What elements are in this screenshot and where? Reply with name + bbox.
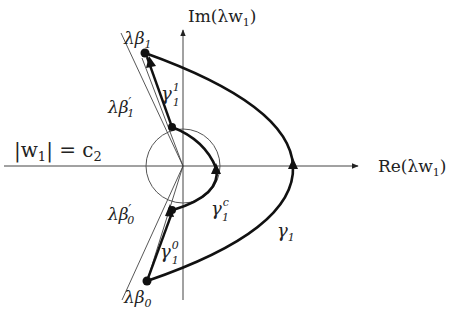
y-axis-label: Im(λw1) [188, 6, 256, 29]
contour-diagram: Im(λw1) Re(λw1) |w1| = c2 λβ1 λβ′1 λβ′0 … [0, 0, 464, 321]
label-beta1-prime: λβ′1 [107, 96, 134, 120]
label-gamma1: γ1 [277, 220, 295, 244]
gamma1-arrow-icon [288, 158, 298, 169]
ray-beta1-inner [142, 58, 183, 166]
label-beta1: λβ1 [123, 28, 152, 51]
label-beta0: λβ0 [123, 287, 152, 310]
label-beta0-prime: λβ′0 [107, 203, 134, 227]
point-beta0-prime [168, 206, 176, 214]
label-gamma1c: γc1 [211, 196, 229, 224]
point-beta1-prime [168, 123, 176, 131]
point-beta0 [143, 277, 152, 286]
label-gamma10: γ01 [160, 239, 179, 267]
circle-label: |w1| = c2 [14, 138, 102, 164]
x-axis-label: Re(λw1) [378, 156, 446, 179]
gamma1c-curve [172, 127, 217, 210]
